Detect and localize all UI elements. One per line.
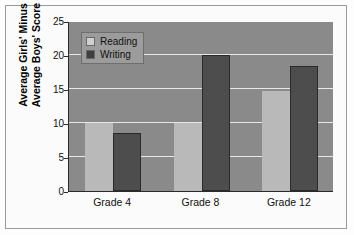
y-axis-ticks: 0510152025 — [0, 22, 64, 192]
legend-swatch-reading-icon — [86, 37, 95, 46]
screenshot-root: Average Girls' Minus Average Boys' Score… — [0, 0, 354, 235]
bar-grade-12-reading — [262, 91, 290, 191]
x-tick-label: Grade 8 — [182, 196, 220, 208]
y-tick-label: 0 — [4, 187, 64, 197]
y-tick-mark — [64, 192, 68, 193]
y-tick-label: 10 — [4, 119, 64, 129]
plot-area: Reading Writing — [68, 22, 333, 192]
bar-grade-8-reading — [174, 123, 202, 191]
x-tick-label: Grade 4 — [93, 196, 131, 208]
chart-legend: Reading Writing — [81, 32, 144, 64]
y-tick-label: 20 — [4, 51, 64, 61]
y-tick-label: 15 — [4, 85, 64, 95]
x-tick-label: Grade 12 — [267, 196, 311, 208]
bar-grade-12-writing — [290, 66, 318, 191]
y-tick-label: 5 — [4, 153, 64, 163]
legend-item-reading: Reading — [86, 36, 137, 47]
legend-label-reading: Reading — [100, 36, 137, 47]
x-axis-ticks: Grade 4Grade 8Grade 12 — [68, 196, 333, 212]
legend-swatch-writing-icon — [86, 50, 95, 59]
bar-grade-8-writing — [202, 55, 230, 191]
y-tick-label: 25 — [4, 17, 64, 27]
bar-chart: Average Girls' Minus Average Boys' Score… — [0, 0, 354, 235]
bar-grade-4-writing — [113, 133, 141, 191]
bar-grade-4-reading — [85, 123, 113, 191]
legend-label-writing: Writing — [100, 49, 131, 60]
legend-item-writing: Writing — [86, 49, 137, 60]
